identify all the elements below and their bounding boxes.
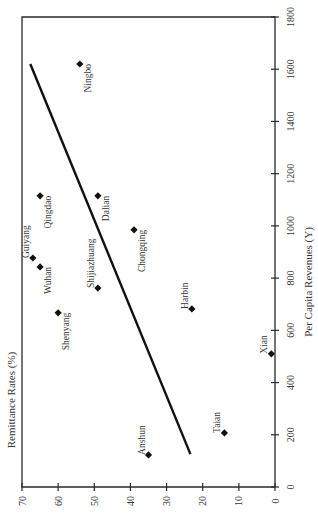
x-axis-title: Per Capita Revenues (Y) xyxy=(302,227,315,337)
y-tick-label: 0 xyxy=(270,499,281,504)
point-label: Anshun xyxy=(137,425,147,455)
data-point: Harbin xyxy=(180,282,196,312)
trend-line xyxy=(30,64,190,454)
x-tick-label: 600 xyxy=(285,323,296,338)
data-point: Wuhan xyxy=(36,263,53,294)
point-label: Guiyang xyxy=(21,225,31,258)
x-tick-label: 1200 xyxy=(285,164,296,184)
point-label: Xian xyxy=(259,335,269,354)
y-tick-label: 30 xyxy=(161,496,172,506)
y-tick-label: 70 xyxy=(17,496,28,506)
point-label: Dalian xyxy=(101,196,111,222)
point-label: Harbin xyxy=(180,282,190,309)
point-label: Ningbo xyxy=(83,64,93,93)
x-tick-label: 400 xyxy=(285,375,296,390)
x-tick-label: 800 xyxy=(285,271,296,286)
point-label: Wuhan xyxy=(43,267,53,294)
y-tick-label: 40 xyxy=(125,496,136,506)
data-points: NingboQingdaoDalianChongqingGuiyangWuhan… xyxy=(21,60,275,458)
data-point: Anshun xyxy=(137,425,153,458)
y-tick-label: 60 xyxy=(53,496,64,506)
data-point: Ningbo xyxy=(76,60,93,92)
data-point: Guiyang xyxy=(21,225,37,262)
data-point: Xian xyxy=(259,335,275,357)
data-point: Shijiazhuang xyxy=(86,238,102,291)
x-tick-label: 1000 xyxy=(285,216,296,236)
x-tick-label: 0 xyxy=(285,485,296,490)
y-axis-title: Remittance Rates (%) xyxy=(5,351,18,448)
y-tick-label: 10 xyxy=(233,496,244,506)
x-tick-label: 1400 xyxy=(285,111,296,131)
x-tick-label: 200 xyxy=(285,427,296,442)
x-tick-label: 1600 xyxy=(285,59,296,79)
point-label: Chongqing xyxy=(137,230,147,272)
point-label: Shijiazhuang xyxy=(86,238,96,288)
data-point: Qingdao xyxy=(36,192,53,228)
data-point: Shenyang xyxy=(55,309,72,350)
data-point: Taian xyxy=(212,412,228,437)
y-tick-label: 20 xyxy=(197,496,208,506)
x-tick-label: 1800 xyxy=(285,7,296,27)
scatter-chart: 020040060080010001200140016001800 010203… xyxy=(0,0,318,528)
data-point: Chongqing xyxy=(130,226,147,272)
data-point: Dalian xyxy=(94,192,111,221)
y-tick-label: 50 xyxy=(89,496,100,506)
point-label: Qingdao xyxy=(43,196,53,229)
point-label: Taian xyxy=(212,412,222,433)
point-label: Shenyang xyxy=(61,313,71,351)
plot-frame xyxy=(22,17,275,487)
